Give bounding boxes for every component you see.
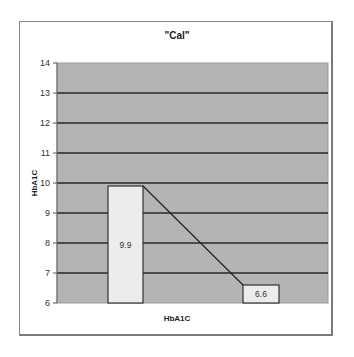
y-tick-label: 7 xyxy=(45,268,50,278)
y-tick-label: 8 xyxy=(45,238,50,248)
y-tick-label: 13 xyxy=(40,88,50,98)
y-tick-label: 10 xyxy=(40,178,50,188)
y-tick-label: 6 xyxy=(45,298,50,308)
x-axis-title: HbA1C xyxy=(164,314,191,323)
y-tick-label: 11 xyxy=(41,148,50,158)
y-tick-label: 14 xyxy=(40,58,50,68)
y-axis-title: HbA1C xyxy=(30,169,39,196)
y-tick-label: 12 xyxy=(40,118,50,128)
bar-data-label: 6.6 xyxy=(255,289,267,299)
bar-data-label: 9.9 xyxy=(120,240,132,250)
y-tick-label: 9 xyxy=(45,208,50,218)
chart-plot: 678910111213149.96.6HbA1CHbA1C xyxy=(0,0,354,357)
